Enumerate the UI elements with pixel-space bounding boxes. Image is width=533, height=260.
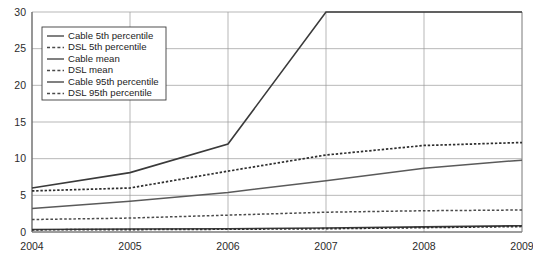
y-axis-tick-label: 15 — [14, 116, 26, 128]
line-chart: 051015202530 200420052006200720082009 Ca… — [0, 0, 533, 260]
legend-item-label: DSL 95th percentile — [68, 87, 152, 98]
chart-canvas: 051015202530 200420052006200720082009 Ca… — [0, 0, 533, 260]
y-axis-tick-label: 25 — [14, 42, 26, 54]
y-axis-tick-label: 0 — [20, 226, 26, 238]
legend-item-label: DSL mean — [68, 64, 113, 75]
x-axis-tick-label: 2008 — [412, 240, 436, 252]
y-axis-tick-label: 5 — [20, 189, 26, 201]
legend-item-label: DSL 5th percentile — [68, 41, 147, 52]
x-axis-tick-label: 2005 — [118, 240, 142, 252]
x-axis-tick-label: 2004 — [20, 240, 44, 252]
x-axis-tick-label: 2006 — [216, 240, 240, 252]
x-axis-tick-label: 2007 — [314, 240, 338, 252]
y-axis-tick-label: 10 — [14, 152, 26, 164]
legend-item-label: Cable 95th percentile — [68, 76, 159, 87]
y-axis-tick-label: 20 — [14, 79, 26, 91]
legend-item-label: Cable 5th percentile — [68, 30, 153, 41]
x-axis-tick-label: 2009 — [510, 240, 533, 252]
legend-item-label: Cable mean — [68, 53, 120, 64]
y-axis-tick-label: 30 — [14, 6, 26, 18]
chart-legend: Cable 5th percentileDSL 5th percentileCa… — [42, 27, 166, 100]
